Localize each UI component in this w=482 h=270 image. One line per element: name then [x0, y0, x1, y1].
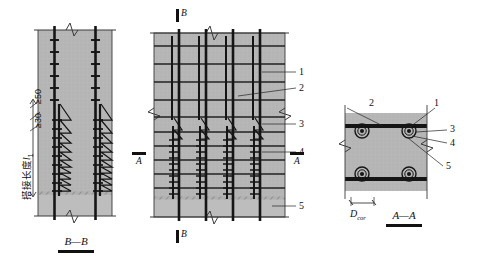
- mid-callout-2: 2: [299, 83, 304, 93]
- caption-bb: B—B: [56, 236, 96, 247]
- technical-drawing-svg: [0, 0, 482, 270]
- lap-length-subscript: 1: [27, 154, 34, 158]
- lap-length-text: 搭接长度: [21, 160, 32, 200]
- gap-label-30: ≥30: [34, 113, 43, 128]
- caption-aa: A—A: [384, 210, 424, 221]
- mid-lower-concrete: [154, 199, 285, 217]
- section-marker-left-bar: [132, 152, 146, 155]
- drawing-canvas: 搭接长度l1 ≥30 ≥50 B—B B B A A 1 2 3 4 5 2 1…: [0, 0, 482, 270]
- section-marker-right-label: A: [294, 157, 300, 167]
- caption-aa-bar: [386, 224, 422, 227]
- right-dcor-dimension: [349, 197, 376, 206]
- right-callout-4: 4: [450, 138, 455, 148]
- mid-callout-1: 1: [299, 67, 304, 77]
- section-marker-bottom-label: B: [181, 230, 187, 240]
- right-callout-1: 1: [434, 98, 439, 108]
- gap-label-50: ≥50: [34, 89, 43, 104]
- caption-bb-bar: [58, 250, 94, 253]
- right-callout-5: 5: [446, 161, 451, 171]
- section-marker-left-label: A: [136, 157, 142, 167]
- right-view-aa: [339, 105, 447, 206]
- section-marker-top-label: B: [181, 9, 187, 19]
- middle-view-elevation: [148, 26, 296, 224]
- lap-length-dimension-label: 搭接长度l1: [22, 154, 34, 200]
- section-marker-bottom-bar: [176, 230, 179, 243]
- mid-callout-5: 5: [299, 201, 304, 211]
- right-callout-2: 2: [369, 98, 374, 108]
- mid-callout-3: 3: [299, 119, 304, 129]
- dcor-dimension-label: Dcor: [350, 208, 366, 221]
- section-marker-top-bar: [176, 9, 179, 22]
- lap-length-symbol: l: [22, 157, 32, 160]
- dcor-subscript: cor: [357, 214, 366, 221]
- right-callout-3: 3: [450, 124, 455, 134]
- left-lower-concrete: [38, 194, 112, 216]
- mid-callout-4: 4: [299, 147, 304, 157]
